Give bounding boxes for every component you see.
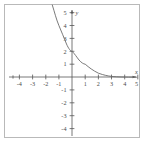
x-axis-label: x: [134, 68, 138, 75]
y-tick-label-pos3: 3: [63, 35, 66, 42]
x-tick-label-pos2: 2: [97, 80, 100, 87]
x-tick-label-neg4: -4: [17, 80, 22, 87]
y-tick-label-pos2: 2: [63, 48, 66, 55]
graph-figure: -4 -3 -2 -1 1 2 3 4 5 5 4 3 2 1 -1 -2 -3…: [0, 0, 145, 143]
y-tick-label-pos1: 1: [63, 60, 66, 67]
y-tick-label-neg2: -2: [61, 99, 66, 106]
x-tick-label-pos3: 3: [110, 80, 113, 87]
x-tick-label-neg2: -2: [43, 80, 48, 87]
y-axis-label: y: [75, 9, 79, 16]
y-tick-label-pos5: 5: [63, 9, 66, 16]
x-tick-label-pos5: 5: [135, 80, 138, 87]
y-tick-label-neg3: -3: [61, 112, 66, 119]
x-tick-label-pos4: 4: [123, 80, 126, 87]
x-tick-label-pos1: 1: [84, 80, 87, 87]
y-tick-label-neg1: -1: [61, 86, 66, 93]
coordinate-plane: -4 -3 -2 -1 1 2 3 4 5 5 4 3 2 1 -1 -2 -3…: [0, 0, 145, 143]
y-tick-label-pos4: 4: [63, 22, 66, 29]
y-tick-label-neg4: -4: [61, 125, 66, 132]
x-tick-label-neg3: -3: [30, 80, 35, 87]
